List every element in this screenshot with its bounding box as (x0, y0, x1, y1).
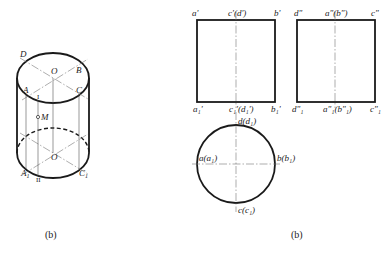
point-M-marker (36, 115, 39, 118)
diagram-canvas: D B O A C I M O A1 II C1 (b) a' c'(d') b… (0, 0, 384, 254)
label-a-prime: a' (192, 8, 200, 18)
label-c1-dprime: c"₁ (370, 104, 381, 114)
label-B: B (76, 65, 82, 75)
label-a1-prime: a₁' (193, 104, 204, 114)
caption-right: (b) (291, 229, 303, 241)
label-A: A (22, 85, 29, 95)
label-O-bottom: O (51, 152, 58, 162)
caption-left: (b) (45, 229, 57, 241)
label-c-c1: c(c₁) (238, 205, 255, 215)
label-C: C (76, 85, 83, 95)
label-O-top: O (51, 66, 58, 76)
front-view: a' c'(d') b' a₁' c₁'(d₁') b₁' (192, 8, 282, 114)
label-D: D (19, 49, 27, 59)
label-M: M (40, 112, 49, 122)
label-c-prime-d-prime: c'(d') (228, 8, 246, 18)
label-A1: A1 (20, 168, 30, 179)
label-C1: C1 (79, 168, 88, 179)
label-d-dprime: d" (294, 8, 303, 18)
label-d-d1: d(d₁) (238, 116, 256, 126)
side-view-rect (297, 20, 375, 102)
label-a-dprime-b-dprime: a"(b") (325, 8, 348, 18)
label-b-b1: b(b₁) (277, 153, 295, 163)
label-I: I (37, 93, 40, 101)
label-b1-prime: b₁' (271, 104, 282, 114)
side-view: d" a"(b") c" d"₁ a"₁(b"₁) c"₁ (292, 8, 381, 114)
top-view: d(d₁) a(a₁) b(b₁) c(c₁) (192, 112, 295, 215)
label-c-dprime: c" (371, 8, 379, 18)
label-d1-dprime: d"₁ (292, 104, 303, 114)
cylinder-axonometric: D B O A C I M O A1 II C1 (b) (17, 49, 89, 241)
label-a1-dprime-b1-dprime: a"₁(b"₁) (323, 104, 352, 114)
label-c1-prime-d1-prime: c₁'(d₁') (229, 104, 254, 114)
label-II: II (36, 176, 41, 184)
label-b-prime: b' (274, 8, 282, 18)
label-a-a1: a(a₁) (199, 153, 217, 163)
